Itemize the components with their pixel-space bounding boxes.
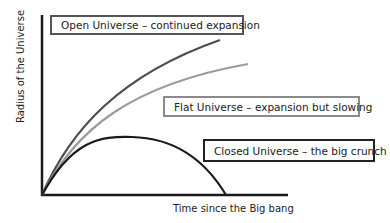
y-axis-label: Radius of the Universe xyxy=(15,5,26,129)
flat-universe-curve xyxy=(42,64,248,195)
open-universe-label: Open Universe – continued expansion xyxy=(50,15,244,35)
open-universe-curve xyxy=(42,40,220,195)
closed-universe-label: Closed Universe – the big crunch xyxy=(203,139,375,162)
x-axis-label: Time since the Big bang xyxy=(173,203,294,214)
flat-universe-label: Flat Universe – expansion but slowing xyxy=(163,96,360,117)
